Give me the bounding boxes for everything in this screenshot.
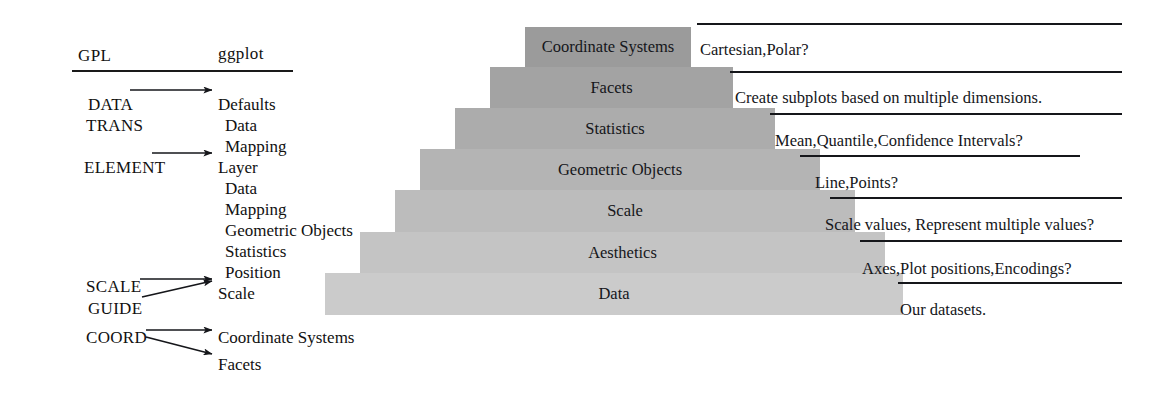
annotation-rule (697, 23, 1122, 25)
arrow-coord-to-facets (146, 337, 212, 354)
ggplot-term: Mapping (225, 137, 286, 157)
pyramid-step-label: Statistics (585, 119, 645, 139)
annotation-text: Scale values, Represent multiple values? (825, 215, 1094, 235)
pyramid-step-label: Aesthetics (588, 243, 657, 263)
annotation-text: Line,Points? (815, 173, 898, 193)
ggplot-term: Scale (218, 284, 255, 304)
ggplot-term: Geometric Objects (225, 221, 353, 241)
annotation-text: Our datasets. (900, 300, 986, 320)
ggplot-term: Statistics (225, 242, 286, 262)
annotation-rule (898, 282, 1122, 284)
annotation-text: Axes,Plot positions,Encodings? (862, 259, 1071, 279)
diagram-canvas: GPL ggplot DATATRANSELEMENTSCALEGUIDECOO… (0, 0, 1152, 399)
annotation-rule (730, 71, 1122, 73)
pyramid-step-label: Scale (607, 201, 643, 221)
pyramid-step: Aesthetics (360, 232, 885, 273)
ggplot-term: Defaults (218, 95, 276, 115)
ggplot-term: Facets (218, 355, 261, 375)
pyramid-step-label: Coordinate Systems (542, 37, 674, 57)
column-header-gpl: GPL (78, 46, 111, 66)
ggplot-term: Mapping (225, 200, 286, 220)
ggplot-term: Coordinate Systems (218, 328, 354, 348)
annotation-rule (860, 240, 1122, 242)
arrow-guide-to-scale (142, 281, 212, 297)
pyramid-step: Facets (490, 67, 733, 108)
gpl-term: GUIDE (88, 299, 142, 319)
pyramid-step: Data (325, 273, 903, 315)
annotation-text: Create subplots based on multiple dimens… (735, 88, 1042, 108)
annotation-rule (770, 113, 1122, 115)
pyramid-step: Scale (395, 190, 855, 232)
gpl-term: SCALE (86, 277, 141, 297)
ggplot-term: Layer (218, 158, 258, 178)
ggplot-term: Position (225, 263, 281, 283)
gpl-term: COORD (86, 328, 147, 348)
pyramid-step: Geometric Objects (420, 149, 820, 190)
pyramid-step-label: Data (598, 284, 629, 304)
gpl-term: DATA (88, 95, 133, 115)
pyramid-step: Coordinate Systems (525, 27, 691, 67)
pyramid-step-label: Geometric Objects (558, 160, 682, 180)
gpl-term: TRANS (86, 116, 143, 136)
annotation-rule (800, 155, 1080, 157)
gpl-term: ELEMENT (84, 158, 165, 178)
ggplot-term: Data (225, 116, 257, 136)
annotation-text: Mean,Quantile,Confidence Intervals? (775, 131, 1023, 151)
pyramid-step: Statistics (455, 108, 775, 149)
ggplot-term: Data (225, 179, 257, 199)
column-header-ggplot: ggplot (218, 44, 264, 64)
annotation-rule (830, 197, 1122, 199)
annotation-text: Cartesian,Polar? (700, 40, 809, 60)
pyramid-step-label: Facets (590, 78, 632, 98)
legend-header-rule (72, 70, 293, 72)
